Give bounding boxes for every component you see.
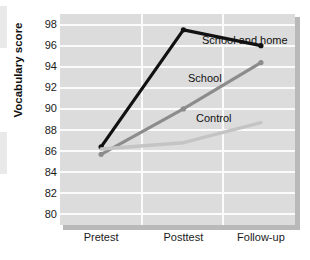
y-tick-80: 80 [23,209,57,220]
y-tick-82: 82 [23,188,57,199]
y-tick-96: 96 [23,40,57,51]
x-tick-follow-up: Follow-up [237,232,285,243]
x-tick-posttest: Posttest [164,232,204,243]
data-point-school-pretest [99,152,104,157]
y-tick-98: 98 [23,19,57,30]
series-label-school: School [188,73,222,84]
y-tick-90: 90 [23,103,57,114]
vocabulary-score-line-chart: 98969492908886848280 PretestPosttestFoll… [0,0,310,260]
y-tick-84: 84 [23,167,57,178]
series-line-control [101,123,261,149]
data-point-school-posttest [181,106,186,111]
series-label-school-and-home: School and home [202,35,288,46]
x-tick-pretest: Pretest [84,232,119,243]
y-tick-92: 92 [23,82,57,93]
y-tick-86: 86 [23,146,57,157]
series-label-control: Control [196,113,231,124]
data-point-school-and-home-posttest [181,27,186,32]
y-tick-88: 88 [23,125,57,136]
data-point-school-follow-up [258,60,263,65]
y-tick-94: 94 [23,61,57,72]
y-axis-title: Vocabulary score [12,10,24,130]
